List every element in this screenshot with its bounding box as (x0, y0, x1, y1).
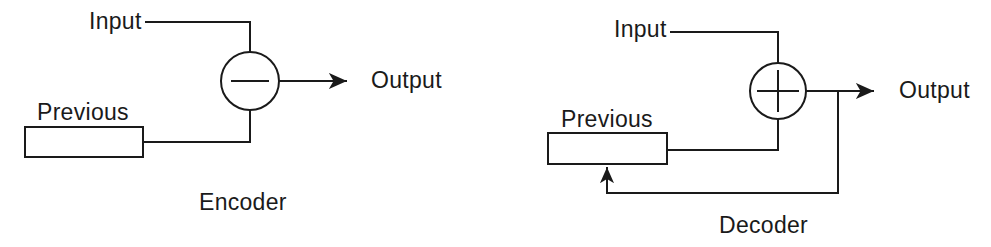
decoder-caption: Decoder (719, 214, 808, 237)
decoder-previous-wire (667, 119, 778, 150)
decoder-previous-box (548, 133, 667, 164)
encoder-previous-label: Previous (37, 101, 129, 124)
encoder-input-label: Input (89, 10, 142, 33)
decoder-output-label: Output (899, 79, 970, 102)
encoder-output-label: Output (371, 69, 442, 92)
decoder-input-label: Input (614, 18, 667, 41)
encoder-previous-wire (143, 110, 250, 142)
diagram-wiring (0, 0, 991, 247)
encoder-caption: Encoder (199, 191, 287, 214)
encoder-decoder-diagram: Input Previous Output Encoder Input Prev… (0, 0, 991, 247)
encoder-input-wire (146, 22, 250, 52)
encoder-previous-box (25, 127, 143, 157)
decoder-input-wire (671, 32, 778, 63)
decoder-previous-label: Previous (561, 108, 653, 131)
